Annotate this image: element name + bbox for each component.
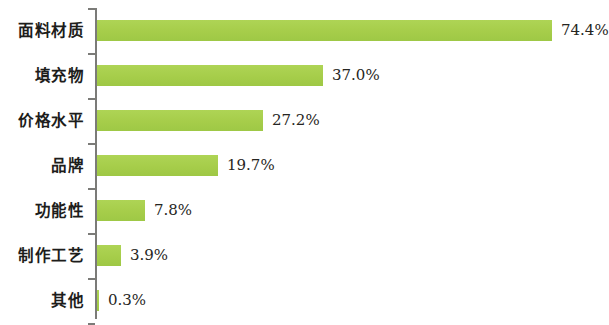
bar-and-value: 27.2% (97, 98, 320, 143)
category-label: 其他 (0, 278, 84, 323)
bar-row: 功能性7.8% (0, 188, 607, 233)
bar (97, 155, 218, 176)
bar (97, 200, 145, 221)
bar-and-value: 37.0% (97, 53, 380, 98)
bar-and-value: 0.3% (97, 278, 146, 323)
bar-and-value: 3.9% (97, 233, 168, 278)
bar-row: 制作工艺3.9% (0, 233, 607, 278)
value-label: 27.2% (272, 113, 320, 128)
bar-row: 其他0.3% (0, 278, 607, 323)
value-label: 3.9% (130, 248, 168, 263)
category-label: 功能性 (0, 188, 84, 233)
bar (97, 110, 263, 131)
bar (97, 245, 121, 266)
bar-and-value: 74.4% (97, 8, 609, 53)
value-label: 0.3% (108, 293, 146, 308)
bar-row: 填充物37.0% (0, 53, 607, 98)
bar-and-value: 19.7% (97, 143, 275, 188)
bar (97, 290, 99, 311)
category-label: 填充物 (0, 53, 84, 98)
bar-row: 品牌19.7% (0, 143, 607, 188)
bar-row: 面料材质74.4% (0, 8, 607, 53)
bar-row: 价格水平27.2% (0, 98, 607, 143)
category-label: 面料材质 (0, 8, 84, 53)
value-label: 37.0% (332, 68, 380, 83)
bar (97, 20, 552, 41)
category-label: 价格水平 (0, 98, 84, 143)
value-label: 19.7% (227, 158, 275, 173)
bar-and-value: 7.8% (97, 188, 192, 233)
category-label: 品牌 (0, 143, 84, 188)
value-label: 7.8% (154, 203, 192, 218)
value-label: 74.4% (561, 23, 609, 38)
bar (97, 65, 323, 86)
category-label: 制作工艺 (0, 233, 84, 278)
